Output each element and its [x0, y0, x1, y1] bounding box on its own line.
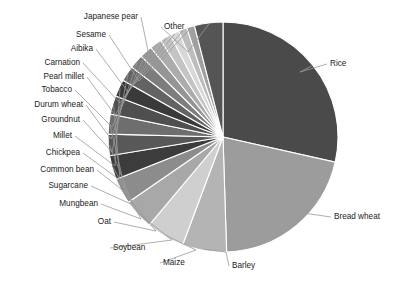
pie-label-durum-wheat: Durum wheat	[34, 100, 83, 109]
pie-label-sugarcane: Sugarcane	[48, 181, 88, 190]
pie-label-rice: Rice	[330, 59, 347, 68]
pie-slices-group	[108, 22, 338, 252]
pie-label-mungbean: Mungbean	[59, 199, 98, 208]
pie-label-bread-wheat: Bread wheat	[334, 212, 381, 221]
pie-chart-canvas: RiceBread wheatBarleyMaizeSoybeanOatMung…	[0, 0, 395, 281]
pie-label-chickpea: Chickpea	[46, 148, 81, 157]
pie-label-tobacco: Tobacco	[42, 85, 73, 94]
pie-chart-figure: RiceBread wheatBarleyMaizeSoybeanOatMung…	[0, 0, 395, 281]
pie-label-millet: Millet	[53, 131, 73, 140]
pie-label-other: Other	[164, 22, 185, 31]
pie-label-maize: Maize	[163, 258, 185, 267]
pie-label-barley: Barley	[232, 261, 256, 270]
pie-label-carnation: Carnation	[44, 58, 80, 67]
pie-label-pearl-millet: Pearl millet	[44, 72, 85, 81]
pie-label-groundnut: Groundnut	[41, 115, 80, 124]
pie-label-soybean: Soybean	[113, 243, 146, 252]
pie-label-sesame: Sesame	[76, 30, 106, 39]
pie-label-japanese-pear: Japanese pear	[84, 12, 138, 21]
pie-label-oat: Oat	[98, 217, 112, 226]
pie-label-common-bean: Common bean	[40, 165, 94, 174]
pie-label-aibika: Aibika	[71, 44, 94, 53]
